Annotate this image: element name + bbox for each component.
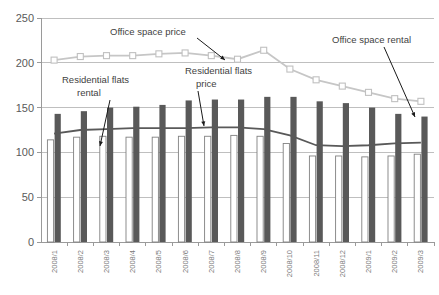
ytick-label-100: 100: [16, 146, 34, 158]
xtick-label-13: 2009/2: [390, 250, 399, 273]
bar-residential-flats-rental-5: [178, 136, 184, 242]
xtick-label-3: 2008/4: [128, 250, 137, 273]
bar-office-space-rental-11: [343, 103, 349, 242]
bar-residential-flats-rental-4: [152, 137, 158, 242]
ytick-label-50: 50: [22, 191, 34, 203]
bar-residential-flats-rental-7: [231, 135, 237, 242]
xtick-label-7: 2008/8: [233, 250, 242, 273]
xtick-label-6: 2008/7: [207, 250, 216, 273]
bar-office-space-rental-5: [186, 100, 192, 242]
bar-residential-flats-rental-3: [126, 137, 132, 242]
ytick-label-0: 0: [28, 236, 34, 248]
xtick-label-14: 2009/3: [416, 250, 425, 273]
xtick-label-5: 2008/6: [181, 250, 190, 273]
marker-office-space-price-11: [339, 83, 345, 89]
anno-residential-flats-rental-label-line1: Residential flats: [62, 74, 129, 85]
bar-residential-flats-rental-9: [283, 143, 289, 242]
bar-office-space-rental-4: [159, 105, 165, 242]
xtick-label-12: 2009/1: [364, 250, 373, 273]
marker-office-space-price-4: [156, 51, 162, 57]
xtick-label-0: 2008/1: [50, 250, 59, 273]
bar-residential-flats-rental-6: [205, 136, 211, 242]
marker-office-space-price-3: [130, 53, 136, 59]
chart-canvas: 0501001502002502008/12008/22008/32008/42…: [0, 0, 439, 295]
anno-office-space-price-label: Office space price: [110, 26, 186, 37]
marker-office-space-price-5: [182, 50, 188, 56]
anno-office-space-rental-label: Office space rental: [332, 34, 411, 45]
ytick-label-250: 250: [16, 12, 34, 24]
xtick-label-11: 2008/12: [338, 250, 347, 277]
bar-residential-flats-rental-10: [309, 156, 315, 242]
anno-residential-flats-price-label-line1: Residential flats: [185, 65, 252, 76]
bar-office-space-rental-3: [133, 107, 139, 242]
marker-office-space-price-0: [51, 57, 57, 63]
bar-residential-flats-rental-11: [336, 156, 342, 242]
marker-office-space-price-14: [418, 98, 424, 104]
marker-office-space-price-1: [77, 54, 83, 60]
xtick-label-4: 2008/5: [154, 250, 163, 273]
bar-office-space-rental-14: [421, 117, 427, 242]
ytick-label-150: 150: [16, 102, 34, 114]
bar-office-space-rental-2: [107, 108, 113, 242]
bar-residential-flats-rental-8: [257, 136, 263, 242]
bar-office-space-rental-10: [317, 101, 323, 242]
bar-office-space-rental-8: [264, 97, 270, 242]
marker-office-space-price-7: [235, 56, 241, 62]
bar-office-space-rental-9: [290, 97, 296, 242]
bar-residential-flats-rental-2: [100, 136, 106, 242]
anno-residential-flats-price-arrowhead: [201, 121, 205, 126]
anno-residential-flats-price-leader: [198, 91, 204, 126]
anno-office-space-rental-leader: [384, 47, 415, 117]
anno-residential-flats-price-label-line2: price: [196, 78, 217, 89]
xtick-label-1: 2008/2: [76, 250, 85, 273]
bar-office-space-rental-13: [395, 114, 401, 242]
chart-container: 0501001502002502008/12008/22008/32008/42…: [0, 0, 439, 295]
bar-residential-flats-rental-12: [362, 157, 368, 242]
bar-office-space-rental-6: [212, 100, 218, 242]
xtick-label-9: 2008/10: [285, 250, 294, 277]
marker-office-space-price-2: [104, 53, 110, 59]
xtick-label-8: 2008/9: [259, 250, 268, 273]
bar-office-space-rental-7: [238, 100, 244, 242]
bar-residential-flats-rental-0: [47, 140, 53, 242]
bar-residential-flats-rental-13: [388, 156, 394, 242]
xtick-label-10: 2008/11: [312, 250, 321, 277]
marker-office-space-price-13: [392, 96, 398, 102]
xtick-label-2: 2008/3: [102, 250, 111, 273]
marker-office-space-price-8: [261, 47, 267, 53]
bar-residential-flats-rental-1: [74, 137, 80, 242]
bar-office-space-rental-12: [369, 108, 375, 242]
marker-office-space-price-12: [366, 89, 372, 95]
bar-residential-flats-rental-14: [414, 154, 420, 242]
anno-residential-flats-rental-label-line2: rental: [77, 87, 101, 98]
marker-office-space-price-10: [313, 77, 319, 83]
ytick-label-200: 200: [16, 57, 34, 69]
marker-office-space-price-9: [287, 66, 293, 72]
marker-office-space-price-6: [208, 53, 214, 59]
